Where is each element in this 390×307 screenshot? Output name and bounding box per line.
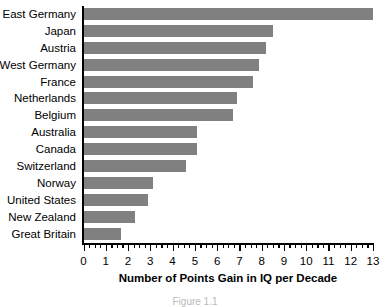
- bar-container: [84, 177, 153, 189]
- bar: [84, 143, 198, 155]
- category-label: Netherlands: [0, 92, 76, 105]
- x-tick-minor: [156, 244, 157, 248]
- x-tick-major: [150, 244, 151, 251]
- x-tick-major: [351, 244, 352, 251]
- x-tick-minor: [317, 244, 318, 248]
- x-tick-minor: [178, 244, 179, 248]
- x-tick-minor: [167, 244, 168, 248]
- x-tick-minor: [278, 244, 279, 248]
- x-tick-label: 13: [367, 254, 380, 268]
- x-tick-minor: [122, 244, 123, 248]
- bar-row: West Germany: [0, 57, 390, 74]
- bar-row: Canada: [0, 141, 390, 158]
- category-label: Belgium: [0, 109, 76, 122]
- x-tick-label: 7: [236, 254, 242, 268]
- bar: [84, 228, 122, 240]
- x-tick-minor: [139, 244, 140, 248]
- bar: [84, 194, 149, 206]
- x-tick-major: [173, 244, 174, 251]
- x-tick-major: [128, 244, 129, 251]
- bar-container: [84, 76, 253, 88]
- bar-container: [84, 42, 267, 54]
- x-tick-minor: [273, 244, 274, 248]
- x-tick-label: 9: [281, 254, 287, 268]
- x-tick-minor: [111, 244, 112, 248]
- bar: [84, 25, 273, 37]
- category-label: Austria: [0, 42, 76, 55]
- x-tick-label: 6: [214, 254, 220, 268]
- x-tick-minor: [312, 244, 313, 248]
- category-label: East Germany: [0, 8, 76, 21]
- x-tick-minor: [323, 244, 324, 248]
- bar-container: [84, 211, 135, 223]
- x-tick-major: [262, 244, 263, 251]
- x-tick-major: [239, 244, 240, 251]
- bar-container: [84, 92, 238, 104]
- bar-container: [84, 228, 122, 240]
- category-label: Switzerland: [0, 160, 76, 173]
- category-label: New Zealand: [0, 211, 76, 224]
- x-tick-minor: [117, 244, 118, 248]
- bar-container: [84, 126, 198, 138]
- bar: [84, 92, 238, 104]
- x-tick-minor: [95, 244, 96, 248]
- x-tick-minor: [212, 244, 213, 248]
- x-axis-ticks: [0, 244, 390, 254]
- x-axis-tick-labels: 012345678910111213: [0, 254, 390, 270]
- x-tick-minor: [89, 244, 90, 248]
- bar: [84, 177, 153, 189]
- x-tick-major: [373, 244, 374, 251]
- bar: [84, 109, 233, 121]
- bar-row: Australia: [0, 124, 390, 141]
- x-tick-major: [195, 244, 196, 251]
- bar-row: Switzerland: [0, 158, 390, 175]
- x-tick-label: 11: [322, 254, 334, 268]
- bar-row: New Zealand: [0, 209, 390, 226]
- bar: [84, 42, 267, 54]
- x-tick-label: 1: [103, 254, 109, 268]
- category-label: France: [0, 76, 76, 89]
- category-label: Australia: [0, 126, 76, 139]
- bar-row: United States: [0, 192, 390, 209]
- bar-container: [84, 109, 233, 121]
- bar-row: Japan: [0, 23, 390, 40]
- x-tick-label: 0: [80, 254, 86, 268]
- x-tick-minor: [356, 244, 357, 248]
- category-label: Japan: [0, 25, 76, 38]
- bar: [84, 160, 186, 172]
- x-tick-minor: [256, 244, 257, 248]
- x-tick-minor: [189, 244, 190, 248]
- x-tick-minor: [289, 244, 290, 248]
- x-tick-minor: [228, 244, 229, 248]
- bar-row: East Germany: [0, 6, 390, 23]
- x-tick-minor: [340, 244, 341, 248]
- category-label: Great Britain: [0, 228, 76, 241]
- figure-caption: Figure 1.1: [0, 296, 390, 307]
- bar: [84, 8, 374, 20]
- bar-container: [84, 59, 260, 71]
- x-tick-minor: [367, 244, 368, 248]
- x-axis-title: Number of Points Gain in IQ per Decade: [82, 272, 374, 284]
- bar-row: Belgium: [0, 107, 390, 124]
- bar-container: [84, 143, 198, 155]
- x-tick-minor: [295, 244, 296, 248]
- bar: [84, 126, 198, 138]
- bar-container: [84, 194, 149, 206]
- x-tick-major: [306, 244, 307, 251]
- x-tick-major: [106, 244, 107, 251]
- bar-container: [84, 25, 273, 37]
- x-tick-minor: [161, 244, 162, 248]
- x-tick-label: 12: [344, 254, 357, 268]
- x-tick-minor: [251, 244, 252, 248]
- x-tick-minor: [234, 244, 235, 248]
- bar-row: France: [0, 74, 390, 91]
- category-label: United States: [0, 194, 76, 207]
- x-tick-minor: [245, 244, 246, 248]
- x-tick-minor: [267, 244, 268, 248]
- x-tick-minor: [223, 244, 224, 248]
- bar: [84, 211, 135, 223]
- x-tick-major: [328, 244, 329, 251]
- bar-row: Austria: [0, 40, 390, 57]
- category-label: Canada: [0, 143, 76, 156]
